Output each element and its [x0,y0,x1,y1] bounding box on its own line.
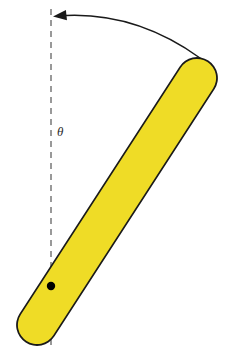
pivot-point-dot [47,282,55,290]
figure-canvas [0,0,226,350]
rod-outline [37,78,197,325]
pendulum-angle-figure: θ [0,0,226,350]
angle-arc-curve [58,15,200,58]
arrowhead-icon [53,10,67,20]
angle-direction-arrow [53,10,200,58]
angle-theta-label: θ [57,125,63,138]
